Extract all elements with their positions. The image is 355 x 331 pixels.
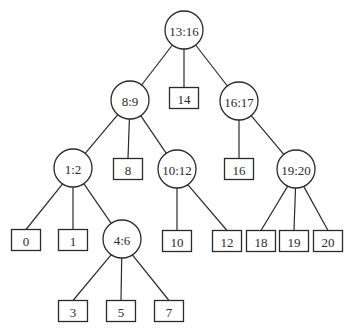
leaf-node-20: 20 bbox=[314, 231, 343, 252]
edge-n1_2-to-n0 bbox=[26, 184, 63, 230]
leaf-node-12: 12 bbox=[213, 231, 242, 252]
leaf-node-16: 16 bbox=[225, 159, 254, 180]
node-label: 16 bbox=[233, 163, 247, 178]
edge-n8_9-to-n8 bbox=[128, 119, 129, 159]
edge-n19_20-to-n19 bbox=[294, 188, 296, 231]
node-label: 10 bbox=[171, 235, 184, 250]
node-label: 0 bbox=[23, 234, 30, 249]
edge-n19_20-to-n20 bbox=[304, 186, 328, 230]
internal-node-8-9: 8:9 bbox=[111, 81, 149, 119]
nodes-layer: 13:168:91416:171:2810:121619:20014:61012… bbox=[12, 11, 343, 322]
internal-node-19-20: 19:20 bbox=[277, 150, 315, 188]
leaf-node-0: 0 bbox=[12, 230, 41, 251]
leaf-node-5: 5 bbox=[107, 301, 136, 322]
node-label: 12 bbox=[221, 235, 234, 250]
leaf-node-7: 7 bbox=[155, 301, 184, 322]
node-label: 7 bbox=[166, 305, 173, 320]
leaf-node-19: 19 bbox=[280, 231, 309, 252]
node-label: 3 bbox=[70, 305, 77, 320]
node-label: 14 bbox=[178, 92, 192, 107]
node-label: 10:12 bbox=[162, 163, 192, 178]
node-label: 4:6 bbox=[114, 233, 131, 248]
leaf-node-18: 18 bbox=[247, 231, 276, 252]
node-label: 19:20 bbox=[281, 163, 311, 178]
node-label: 1 bbox=[70, 234, 77, 249]
edge-n13_16-to-n8_9 bbox=[142, 45, 173, 85]
edge-n4_6-to-n5 bbox=[121, 258, 122, 301]
internal-node-10-12: 10:12 bbox=[158, 150, 196, 188]
leaf-node-1: 1 bbox=[59, 230, 88, 251]
edge-n16_17-to-n19_20 bbox=[251, 116, 284, 155]
edge-n4_6-to-n7 bbox=[132, 255, 169, 301]
internal-node-1-2: 1:2 bbox=[54, 149, 92, 187]
node-label: 20 bbox=[322, 235, 335, 250]
node-label: 5 bbox=[118, 305, 125, 320]
leaf-node-10: 10 bbox=[163, 231, 192, 252]
edge-n4_6-to-n3 bbox=[73, 255, 111, 301]
edge-n10_12-to-n12 bbox=[188, 185, 227, 231]
leaf-node-14: 14 bbox=[170, 88, 199, 109]
edge-n8_9-to-n10_12 bbox=[141, 116, 167, 154]
leaf-node-8: 8 bbox=[114, 159, 143, 180]
internal-node-16-17: 16:17 bbox=[220, 82, 258, 120]
leaf-node-3: 3 bbox=[59, 301, 88, 322]
edge-n8_9-to-n1_2 bbox=[85, 115, 118, 154]
edge-n19_20-to-n18 bbox=[261, 186, 288, 230]
node-label: 18 bbox=[255, 235, 268, 250]
edge-n13_16-to-n16_17 bbox=[196, 45, 228, 86]
internal-node-13-16: 13:16 bbox=[165, 11, 203, 49]
node-label: 8 bbox=[125, 163, 132, 178]
node-label: 13:16 bbox=[169, 24, 199, 39]
node-label: 8:9 bbox=[122, 94, 139, 109]
internal-node-4-6: 4:6 bbox=[103, 220, 141, 258]
node-label: 19 bbox=[288, 235, 301, 250]
edge-n1_2-to-n4_6 bbox=[84, 184, 111, 224]
tree-diagram: 13:168:91416:171:2810:121619:20014:61012… bbox=[0, 0, 355, 331]
node-label: 16:17 bbox=[224, 95, 254, 110]
node-label: 1:2 bbox=[65, 162, 82, 177]
